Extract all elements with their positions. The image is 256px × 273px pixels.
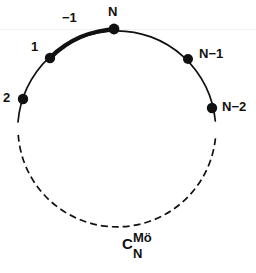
node-dot-n-minus-2[interactable] [207, 103, 217, 113]
arc-label-minus-1: −1 [62, 11, 77, 24]
node-dot-n-minus-1[interactable] [183, 54, 193, 64]
node-label-n-minus-1: N−1 [199, 47, 223, 60]
node-label-n: N [108, 5, 117, 18]
mobius-circle-diagram [0, 0, 256, 273]
node-label-2: 2 [3, 91, 10, 104]
caption-subscript: N [133, 247, 142, 260]
bold-arc-segment [50, 29, 116, 57]
dashed-arc-segment [18, 135, 216, 227]
node-dot-n[interactable] [109, 24, 120, 35]
solid-arc-segment [18, 31, 215, 122]
node-label-n-minus-2: N−2 [222, 100, 246, 113]
node-label-1: 1 [31, 40, 38, 53]
figure-canvas: N 1 2 N−1 N−2 −1 CMöN [0, 0, 256, 273]
caption-scripts: MöN [133, 248, 134, 249]
figure-caption: CMöN [0, 236, 256, 251]
caption-base-symbol: C [122, 235, 133, 252]
node-dot-1[interactable] [45, 53, 55, 63]
caption-superscript: Mö [133, 231, 152, 244]
node-dot-2[interactable] [18, 94, 28, 104]
